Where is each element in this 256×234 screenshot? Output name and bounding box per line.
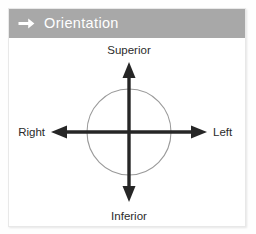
orientation-diagram: Superior Inferior Right Left xyxy=(9,38,245,226)
label-inferior: Inferior xyxy=(111,210,147,222)
label-superior: Superior xyxy=(107,44,151,56)
card-body: Superior Inferior Right Left xyxy=(9,38,245,226)
screenshot-canvas: Orientation Superior Inferior Right xyxy=(0,0,256,234)
right-arrow-icon xyxy=(18,17,35,30)
label-right: Right xyxy=(18,126,46,138)
left-arrowhead-icon xyxy=(191,126,207,139)
inferior-arrowhead-icon xyxy=(123,186,136,202)
superior-arrowhead-icon xyxy=(123,62,136,78)
card-title: Orientation xyxy=(44,16,119,31)
right-arrowhead-icon xyxy=(51,126,67,139)
orientation-card: Orientation Superior Inferior Right xyxy=(8,8,246,227)
card-header: Orientation xyxy=(9,9,245,38)
label-left: Left xyxy=(213,126,233,138)
